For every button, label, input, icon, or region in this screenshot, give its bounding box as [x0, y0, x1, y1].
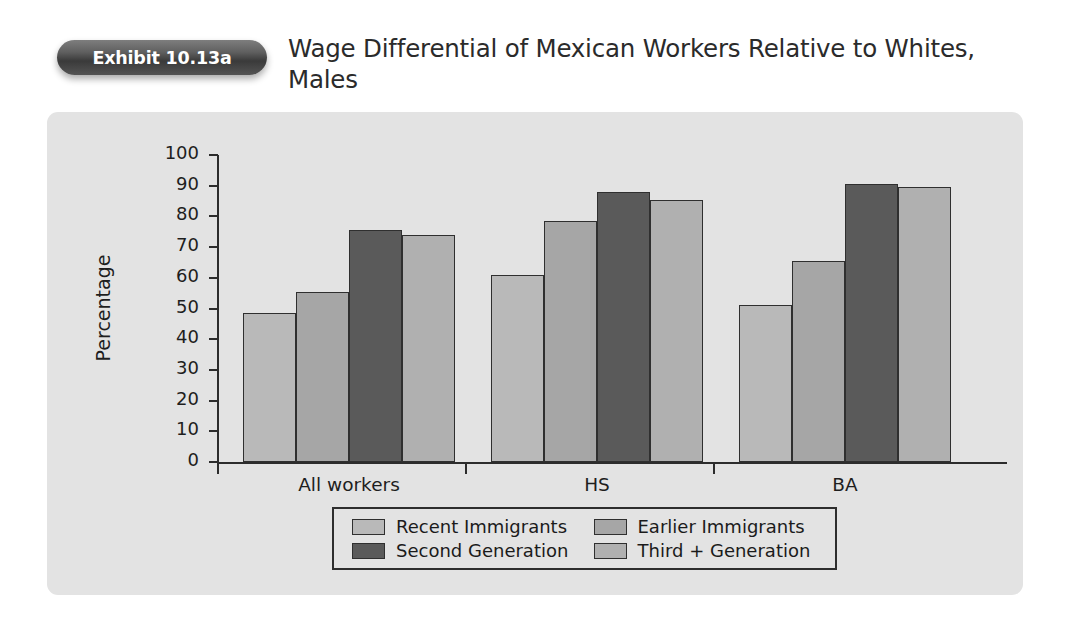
y-tick-mark — [209, 185, 218, 187]
exhibit-header: Exhibit 10.13a Wage Differential of Mexi… — [0, 0, 1083, 112]
y-tick-label: 30 — [153, 357, 199, 378]
y-tick-mark — [209, 338, 218, 340]
legend-swatch-icon — [352, 519, 385, 535]
x-axis-label-all-workers: All workers — [234, 474, 464, 495]
bar-hs-recent-immigrants — [491, 275, 544, 462]
x-tick-mark — [465, 464, 467, 474]
x-axis-label-hs: HS — [482, 474, 712, 495]
x-tick-mark — [713, 464, 715, 474]
y-tick-label: 60 — [153, 265, 199, 286]
chart-panel: Percentage 0102030405060708090100 All wo… — [47, 112, 1023, 595]
x-axis-line — [217, 462, 1007, 464]
y-tick-mark — [209, 154, 218, 156]
legend-swatch-icon — [594, 519, 627, 535]
bar-all-workers-earlier-immigrants — [296, 292, 349, 462]
y-tick-label: 20 — [153, 388, 199, 409]
legend-label: Second Generation — [396, 540, 568, 561]
bar-all-workers-recent-immigrants — [243, 313, 296, 462]
y-tick-mark — [209, 461, 218, 463]
exhibit-number-badge: Exhibit 10.13a — [57, 40, 267, 75]
y-tick-label: 0 — [153, 449, 199, 470]
bar-ba-recent-immigrants — [739, 305, 792, 462]
legend-swatch-icon — [594, 543, 627, 559]
exhibit-number-label: Exhibit 10.13a — [92, 48, 231, 68]
y-tick-mark — [209, 369, 218, 371]
legend-item-recent-immigrants[interactable]: Recent Immigrants — [352, 515, 580, 539]
y-tick-mark — [209, 215, 218, 217]
y-tick-mark — [209, 400, 218, 402]
bar-all-workers-third-generation — [402, 235, 455, 462]
y-tick-label: 100 — [153, 142, 199, 163]
legend-item-earlier-immigrants[interactable]: Earlier Immigrants — [594, 515, 822, 539]
bar-all-workers-second-generation — [349, 230, 402, 462]
y-tick-mark — [209, 277, 218, 279]
y-tick-label: 50 — [153, 296, 199, 317]
legend-label: Third + Generation — [638, 540, 811, 561]
bar-hs-earlier-immigrants — [544, 221, 597, 462]
legend-item-third-generation[interactable]: Third + Generation — [594, 539, 822, 563]
legend-label: Recent Immigrants — [396, 516, 567, 537]
bar-hs-third-generation — [650, 200, 703, 462]
legend-item-second-generation[interactable]: Second Generation — [352, 539, 580, 563]
y-tick-label: 40 — [153, 326, 199, 347]
y-tick-mark — [209, 430, 218, 432]
y-tick-label: 10 — [153, 418, 199, 439]
y-tick-mark — [209, 246, 218, 248]
x-tick-mark — [217, 464, 219, 474]
x-axis-label-ba: BA — [730, 474, 960, 495]
plot-area: Percentage 0102030405060708090100 All wo… — [47, 112, 1023, 595]
y-tick-label: 90 — [153, 173, 199, 194]
chart-legend: Recent ImmigrantsEarlier ImmigrantsSecon… — [332, 507, 837, 570]
page-title: Wage Differential of Mexican Workers Rel… — [288, 33, 1008, 95]
bar-ba-second-generation — [845, 184, 898, 462]
bar-hs-second-generation — [597, 192, 650, 462]
legend-swatch-icon — [352, 543, 385, 559]
legend-label: Earlier Immigrants — [638, 516, 805, 537]
y-tick-label: 80 — [153, 203, 199, 224]
bar-ba-third-generation — [898, 187, 951, 462]
y-axis-title: Percentage — [92, 208, 114, 408]
y-tick-mark — [209, 308, 218, 310]
y-tick-label: 70 — [153, 234, 199, 255]
bar-ba-earlier-immigrants — [792, 261, 845, 462]
